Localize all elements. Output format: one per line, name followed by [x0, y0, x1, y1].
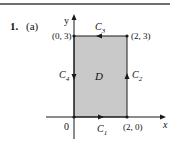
curve-subscript: 1 [104, 129, 108, 137]
vertex-dot [72, 34, 75, 37]
curve-label-c1: C1 [97, 124, 107, 138]
curve-name: C [97, 123, 104, 134]
curve-name: C [95, 21, 102, 32]
x-axis-label: x [163, 120, 167, 130]
vertex-label-0-3: (0, 3) [52, 31, 72, 41]
vertex-dot [72, 115, 75, 118]
curve-subscript: 4 [66, 75, 70, 83]
curve-label-c3: C3 [95, 22, 105, 36]
y-axis-arrow-icon [72, 14, 77, 20]
vertex-dot [125, 34, 128, 37]
curve-label-c2: C2 [132, 70, 142, 84]
origin-label: 0 [64, 122, 69, 132]
curve-name: C [132, 69, 139, 80]
vertex-dot [125, 115, 128, 118]
curve-subscript: 3 [102, 27, 106, 35]
vertex-label-2-0: (2, 0) [123, 122, 143, 132]
curve-label-c4: C4 [59, 70, 69, 84]
curve-subscript: 2 [139, 75, 143, 83]
green-theorem-diagram [0, 0, 170, 145]
region-label: D [95, 71, 103, 81]
curve-name: C [59, 69, 66, 80]
vertex-label-2-3: (2, 3) [131, 31, 151, 41]
y-axis-label: y [64, 16, 69, 26]
